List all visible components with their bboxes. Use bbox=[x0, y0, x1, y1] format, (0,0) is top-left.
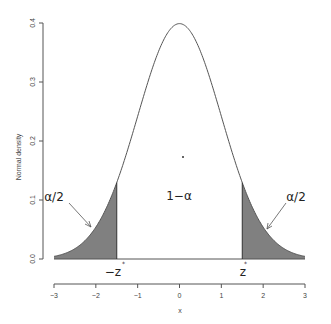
x-axis: −3−2−10123 x bbox=[50, 284, 307, 314]
x-axis-title: x bbox=[178, 307, 182, 314]
x-tick-label: 2 bbox=[261, 292, 265, 299]
x-tick-label: 3 bbox=[303, 292, 307, 299]
right-arrow-shaft bbox=[267, 203, 286, 229]
y-tick-label: 0.4 bbox=[29, 18, 36, 28]
right-critical-star: * bbox=[244, 260, 247, 267]
y-axis: 0.00.10.20.30.4 Normal density bbox=[15, 18, 43, 264]
left-tail-label: α/2 bbox=[44, 190, 64, 204]
x-tick-label: −3 bbox=[50, 292, 58, 299]
left-arrow-shaft bbox=[69, 203, 91, 227]
normal-density-chart: 0.00.10.20.30.4 Normal density −3−2−1012… bbox=[0, 0, 331, 324]
x-tick-label: −1 bbox=[134, 292, 142, 299]
x-tick-label: −2 bbox=[92, 292, 100, 299]
y-tick-label: 0.1 bbox=[29, 195, 36, 205]
right-critical-label: z bbox=[240, 265, 246, 279]
y-tick-label: 0.2 bbox=[29, 136, 36, 146]
y-tick-label: 0.0 bbox=[29, 254, 36, 264]
center-point bbox=[182, 156, 184, 158]
density-curve bbox=[54, 24, 305, 257]
center-label: 1−α bbox=[166, 189, 192, 203]
x-tick-label: 1 bbox=[219, 292, 223, 299]
x-tick-label: 0 bbox=[178, 292, 182, 299]
left-critical-label: −z bbox=[105, 265, 121, 279]
y-tick-label: 0.3 bbox=[29, 77, 36, 87]
left-critical-star: * bbox=[122, 260, 125, 267]
plot-area bbox=[54, 24, 305, 259]
y-axis-title: Normal density bbox=[15, 133, 23, 180]
right-tail-label: α/2 bbox=[286, 190, 306, 204]
